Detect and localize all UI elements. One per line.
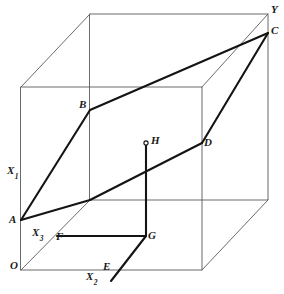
- axis-label-x3: X3: [32, 227, 43, 241]
- axis-label-x3-text: X: [32, 226, 39, 238]
- point-markers: [144, 141, 148, 145]
- figure-root: O A B C D E F G H Y X1 X2 X3: [0, 0, 284, 294]
- axis-label-x2-subscript: 2: [94, 278, 98, 287]
- point-label-C: C: [271, 25, 278, 36]
- point-marker-H: [144, 141, 148, 145]
- point-label-H: H: [151, 135, 160, 146]
- cube-back-face: [90, 14, 268, 200]
- point-label-G: G: [148, 230, 156, 241]
- plane-and-construction-lines: [21, 33, 268, 281]
- point-label-F: F: [56, 231, 63, 242]
- point-label-B: B: [79, 99, 86, 110]
- segment-E-G: [111, 236, 146, 281]
- axis-label-x1-subscript: 1: [15, 172, 19, 181]
- point-label-O: O: [10, 260, 18, 271]
- point-label-A: A: [9, 214, 16, 225]
- segment-C-D: [202, 33, 268, 143]
- axis-label-x2: X2: [86, 271, 97, 285]
- geometry-canvas: [0, 0, 284, 294]
- point-label-E: E: [103, 261, 110, 272]
- axis-label-x1-text: X: [7, 164, 14, 176]
- cube-edge-top-left: [21, 14, 90, 87]
- point-label-D: D: [204, 137, 212, 148]
- axis-label-x2-text: X: [86, 270, 93, 282]
- axis-label-y: Y: [271, 4, 278, 15]
- axis-label-x3-subscript: 3: [40, 234, 44, 243]
- segment-B-C: [90, 33, 268, 110]
- axis-label-x1: X1: [7, 165, 18, 179]
- cube-edge-bottom-right: [202, 200, 268, 270]
